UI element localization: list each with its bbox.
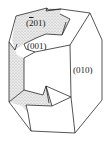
label-201-rest: 01) xyxy=(34,18,46,28)
crystal-drawing xyxy=(0,0,112,146)
face-label-001: (001) xyxy=(27,42,47,51)
face-label-010: (010) xyxy=(73,66,93,75)
face-label-201: (201) xyxy=(26,19,46,28)
